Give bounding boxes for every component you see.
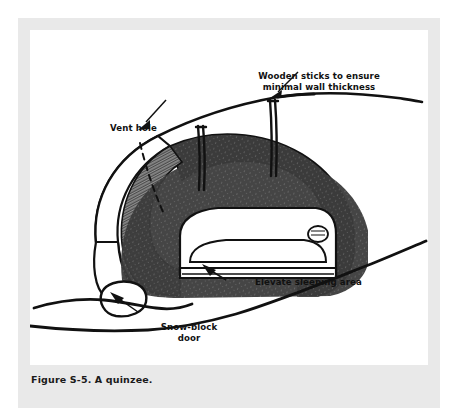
callout-snow-block-door: Snow-block door: [157, 322, 221, 345]
figure-container: Wooden sticks to ensure minimal wall thi…: [0, 0, 449, 419]
snow-block-door: [101, 281, 147, 316]
illustration-panel: Wooden sticks to ensure minimal wall thi…: [30, 30, 428, 365]
callout-vent-hole: Vent hole: [110, 123, 157, 134]
callout-wooden-sticks: Wooden sticks to ensure minimal wall thi…: [236, 71, 402, 94]
callout-elevate-sleeping-area: Elevate sleeping area: [255, 277, 362, 288]
sleeper-head: [308, 226, 328, 242]
figure-caption: Figure S-5. A quinzee.: [31, 374, 153, 385]
